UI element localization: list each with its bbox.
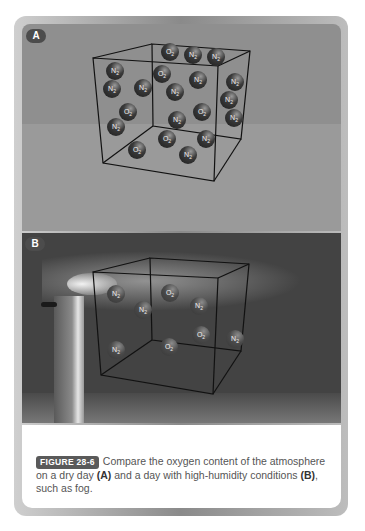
nitrogen-molecule: N2 <box>166 83 184 101</box>
caption-part-2: and a day with high-humidity conditions <box>111 469 300 481</box>
nitrogen-molecule: N2 <box>197 130 215 148</box>
oxygen-molecule: O2 <box>158 130 176 148</box>
nitrogen-molecule: N2 <box>184 46 202 64</box>
oxygen-molecule: O2 <box>160 338 178 356</box>
oxygen-molecule: O2 <box>161 43 179 61</box>
nitrogen-molecule: N2 <box>226 330 244 348</box>
nitrogen-molecule: N2 <box>107 285 125 303</box>
caption-ref-b: (B) <box>300 469 315 481</box>
nitrogen-molecule: N2 <box>107 118 125 136</box>
oxygen-molecule: O2 <box>193 103 211 121</box>
oxygen-molecule: O2 <box>153 65 171 83</box>
nitrogen-molecule: N2 <box>107 341 125 359</box>
nitrogen-molecule: N2 <box>179 146 197 164</box>
cube-b <box>93 258 249 394</box>
figure-label: FIGURE 28-6 <box>36 456 99 469</box>
nitrogen-molecule: N2 <box>168 111 186 129</box>
figure-caption: FIGURE 28-6Compare the oxygen content of… <box>22 425 341 508</box>
oxygen-molecule: O2 <box>192 326 210 344</box>
nitrogen-molecule: N2 <box>225 109 243 127</box>
nitrogen-molecule: N2 <box>190 297 208 315</box>
nitrogen-molecule: N2 <box>103 80 121 98</box>
oxygen-molecule: O2 <box>161 284 179 302</box>
nitrogen-molecule: N2 <box>207 48 225 66</box>
nitrogen-molecule: N2 <box>134 79 152 97</box>
oxygen-molecule: O2 <box>128 141 146 159</box>
oxygen-molecule: O2 <box>119 103 137 121</box>
caption-text: FIGURE 28-6Compare the oxygen content of… <box>36 455 331 495</box>
nitrogen-molecule: N2 <box>134 301 152 319</box>
nitrogen-molecule: N2 <box>220 91 238 109</box>
nitrogen-molecule: N2 <box>189 71 207 89</box>
nitrogen-molecule: N2 <box>226 73 244 91</box>
caption-ref-a: (A) <box>97 469 112 481</box>
nitrogen-molecule: N2 <box>106 62 124 80</box>
